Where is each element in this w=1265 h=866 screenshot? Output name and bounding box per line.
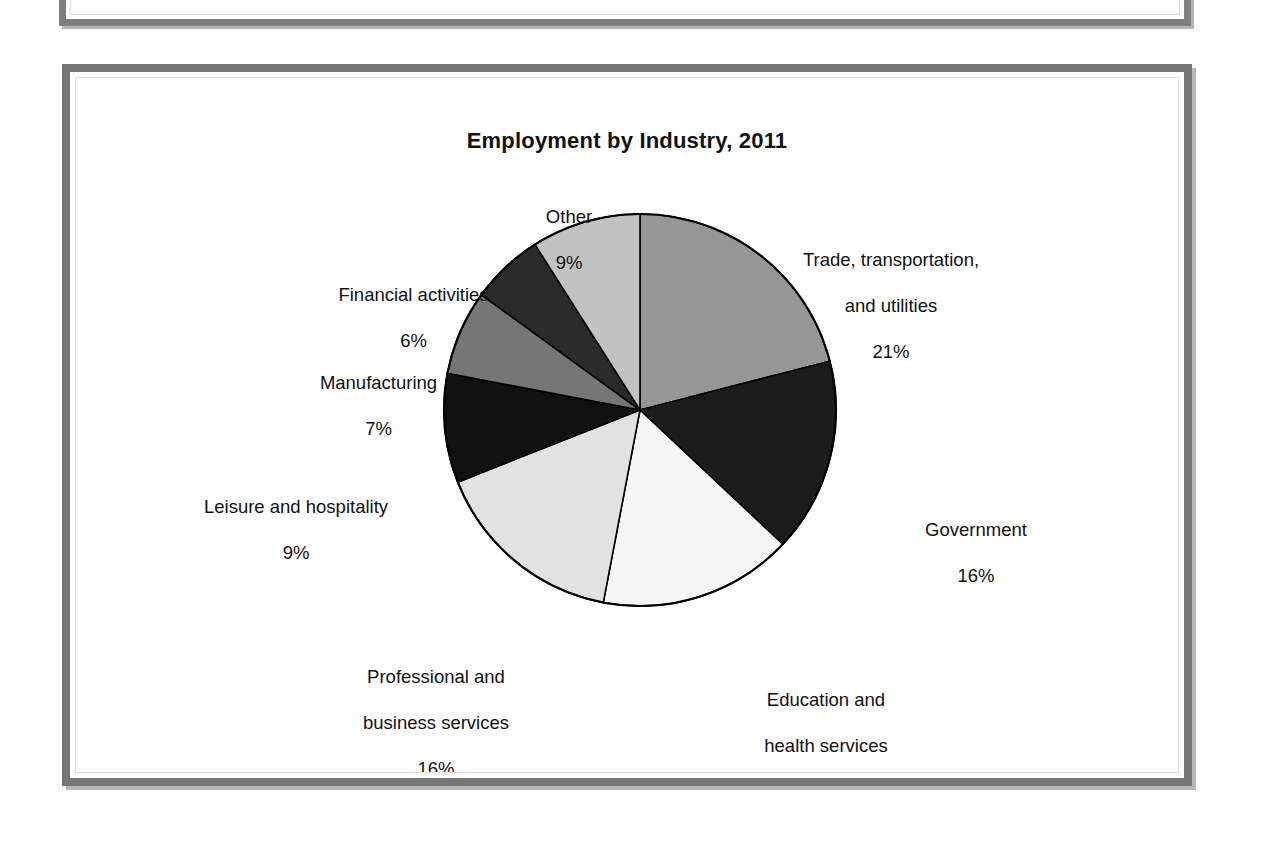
figure-frame-inner: Employment by Industry, 2011 Other 9% Tr… (75, 77, 1179, 773)
pie-label-trade-line2: and utilities (766, 295, 1016, 318)
pie-label-financial: Financial activities 6% (291, 261, 536, 376)
figure-frame: Employment by Industry, 2011 Other 9% Tr… (62, 64, 1192, 786)
pie-label-financial-value: 6% (291, 330, 536, 353)
pie-label-other-line1: Other (494, 206, 644, 229)
pie-label-government-line1: Government (876, 519, 1076, 542)
scan-frame-top (59, 0, 1191, 26)
pie-chart: Other 9% Trade, transportation, and util… (76, 78, 1178, 772)
pie-label-education: Education and health services 16% (716, 666, 936, 773)
pie-label-government-value: 16% (876, 565, 1076, 588)
pie-label-professional-line1: Professional and (321, 666, 551, 689)
pie-label-professional: Professional and business services 16% (321, 643, 551, 773)
pie-label-leisure-value: 9% (156, 542, 436, 565)
pie-label-professional-line2: business services (321, 712, 551, 735)
pie-label-government: Government 16% (876, 496, 1076, 611)
pie-label-manufacturing-value: 7% (271, 418, 486, 441)
pie-label-trade-line1: Trade, transportation, (766, 249, 1016, 272)
scan-frame-top-inner (70, 0, 1180, 15)
pie-label-leisure-line1: Leisure and hospitality (156, 496, 436, 519)
pie-label-trade: Trade, transportation, and utilities 21% (766, 226, 1016, 387)
pie-label-professional-value: 16% (321, 758, 551, 773)
pie-label-education-line2: health services (716, 735, 936, 758)
pie-label-financial-line1: Financial activities (291, 284, 536, 307)
pie-label-leisure: Leisure and hospitality 9% (156, 473, 436, 588)
pie-label-education-line1: Education and (716, 689, 936, 712)
pie-label-trade-value: 21% (766, 341, 1016, 364)
